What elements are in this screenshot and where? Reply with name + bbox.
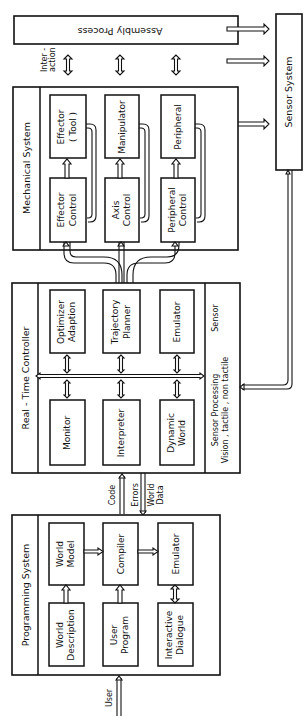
optimizer-label: Optimizer [56,300,66,344]
controller-programming-links: Code Errors World Data [108,473,165,515]
user-label: User [105,688,114,707]
sensor-types-label: Vision , tactile , non tactile [221,357,230,464]
user-input: User [105,676,122,716]
interaction-arrow-2 [116,55,124,75]
robot-system-diagram: Assembly Process Inter - action Sensor S… [0,0,304,722]
world-data-sublabel: Data [156,485,165,504]
dynamic-world-sublabel: World [177,420,187,446]
effector-label: Effector [56,109,66,144]
effector-control-label: Effector [56,192,66,227]
peripheral-control-sublabel: Control [178,194,188,227]
programming-system-label: Programming System [20,544,31,646]
interaction-arrow-1 [64,55,72,75]
errors-label: Errors [131,483,140,507]
sensor-system-label: Sensor System [283,56,294,127]
prog-emulator-label: Emulator [171,533,181,574]
sensor-label: Sensor [211,304,220,332]
user-program-label: User [109,624,119,645]
mechanical-system-block: Mechanical System Effector ( Tool ) Mani… [13,87,238,250]
interaction-arrows: Inter - action [40,47,180,75]
monitor-label: Monitor [62,416,72,451]
dynamic-world-label: Dynamic [166,413,176,453]
peripheral-label: Peripheral [173,104,183,150]
effector-sublabel: ( Tool ) [68,112,78,142]
world-description-label: World [55,622,65,648]
code-label: Code [108,485,117,506]
world-model-sublabel: Model [66,540,76,567]
world-model-label: World [55,541,65,567]
peripheral-control-label: Peripheral [167,187,177,233]
mechanical-system-label: Mechanical System [21,122,32,214]
real-time-controller-label: Real - Time Controller [20,326,31,429]
compiler-label: Compiler [116,533,126,574]
axis-control-label: Axis [111,200,121,219]
sensor-system-block: Sensor System [276,14,302,170]
assembly-process-label: Assembly Process [78,26,163,37]
trajectory-planner-label: Trajectory [110,299,120,345]
world-description-sublabel: Description [66,609,76,660]
manipulator-label: Manipulator [117,100,127,154]
interactive-dialogue-label: Interactive [164,610,174,659]
programming-system-block: Programming System World Model Compiler … [12,515,220,675]
real-time-controller-block: Real - Time Controller Sensor Processing… [12,283,240,473]
rt-emulator-label: Emulator [172,301,182,342]
sensor-processing-label: Sensor Processing [211,374,220,447]
interpreter-label: Interpreter [116,408,126,457]
optimizer-sublabel: Adaption [67,302,77,342]
interaction-label-2: action [48,47,57,72]
interaction-arrow-3 [172,55,180,75]
effector-control-sublabel: Control [68,194,78,227]
sensor-link [240,170,292,390]
axis-control-sublabel: Control [122,194,132,227]
interaction-to-sensor-arrow [227,56,269,66]
world-data-label: World [147,484,156,507]
user-program-sublabel: Program [120,616,130,654]
interactive-dialogue-sublabel: Dialogue [175,615,185,655]
trajectory-planner-sublabel: Planner [122,305,132,339]
assembly-process-block: Assembly Process [14,16,238,44]
